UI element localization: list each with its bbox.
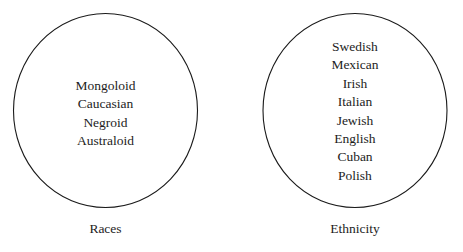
list-item: Polish xyxy=(263,167,447,185)
list-item: Caucasian xyxy=(13,95,198,113)
list-item: Swedish xyxy=(263,38,447,56)
list-item: Mongoloid xyxy=(13,77,198,95)
list-item: Irish xyxy=(263,75,447,93)
set-caption-races: Races xyxy=(13,220,198,237)
list-item: Cuban xyxy=(263,148,447,166)
set-caption-ethnicity: Ethnicity xyxy=(263,220,447,237)
list-item: Italian xyxy=(263,93,447,111)
list-item: Jewish xyxy=(263,112,447,130)
set-group-ethnicity: Swedish Mexican Irish Italian Jewish Eng… xyxy=(231,0,463,252)
list-item: English xyxy=(263,130,447,148)
term-list-races: Mongoloid Caucasian Negroid Australoid xyxy=(13,77,198,151)
list-item: Mexican xyxy=(263,56,447,74)
list-item: Australoid xyxy=(13,132,198,150)
list-item: Negroid xyxy=(13,114,198,132)
figure-canvas: Mongoloid Caucasian Negroid Australoid R… xyxy=(0,0,463,252)
term-list-ethnicity: Swedish Mexican Irish Italian Jewish Eng… xyxy=(263,38,447,185)
set-group-races: Mongoloid Caucasian Negroid Australoid R… xyxy=(0,0,232,252)
